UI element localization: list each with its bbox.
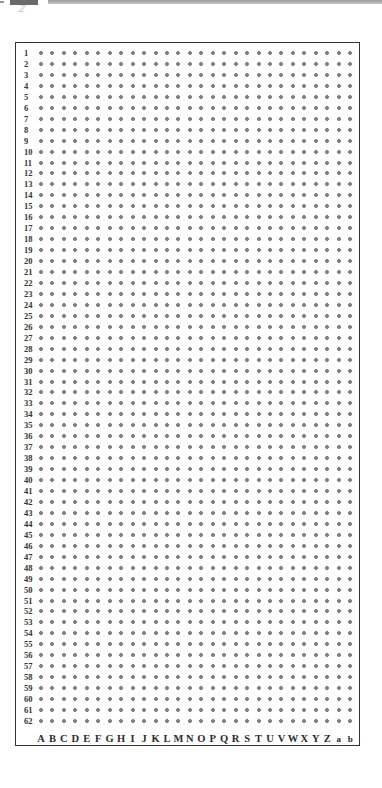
grid-dot xyxy=(211,445,215,449)
grid-dot xyxy=(108,106,112,110)
grid-dot xyxy=(85,84,89,88)
grid-dot xyxy=(131,686,135,690)
column-label: B xyxy=(46,733,58,745)
grid-dot xyxy=(268,161,272,165)
grid-dot xyxy=(348,303,352,307)
grid-dot xyxy=(165,478,169,482)
grid-dot xyxy=(154,139,158,143)
grid-dot xyxy=(108,281,112,285)
grid-dot xyxy=(39,566,43,570)
grid-dot xyxy=(337,128,341,132)
grid-dot xyxy=(96,128,100,132)
grid-dot xyxy=(85,577,89,581)
grid-dot xyxy=(108,533,112,537)
grid-dot xyxy=(234,719,238,723)
grid-dot xyxy=(291,358,295,362)
grid-dot xyxy=(268,117,272,121)
grid-dot xyxy=(142,555,146,559)
grid-dot xyxy=(154,544,158,548)
grid-dot xyxy=(268,325,272,329)
grid-dot xyxy=(188,686,192,690)
grid-dot xyxy=(245,95,249,99)
grid-dot xyxy=(188,95,192,99)
grid-dot xyxy=(131,456,135,460)
grid-dot xyxy=(291,117,295,121)
grid-dot xyxy=(291,369,295,373)
grid-dot xyxy=(257,675,261,679)
grid-dot xyxy=(222,358,226,362)
grid-dot xyxy=(291,292,295,296)
grid-dot xyxy=(131,478,135,482)
grid-dot xyxy=(131,544,135,548)
grid-dot xyxy=(188,555,192,559)
grid-dot xyxy=(154,697,158,701)
grid-dot xyxy=(176,161,180,165)
grid-dot xyxy=(142,95,146,99)
grid-dot xyxy=(188,73,192,77)
grid-dot xyxy=(337,719,341,723)
column-label: Q xyxy=(218,733,230,745)
grid-dot xyxy=(314,150,318,154)
grid-dot xyxy=(325,599,329,603)
grid-dot xyxy=(131,369,135,373)
grid-dot xyxy=(234,73,238,77)
grid-dot xyxy=(257,686,261,690)
grid-dot xyxy=(154,577,158,581)
grid-dot xyxy=(154,631,158,635)
grid-dot xyxy=(268,62,272,66)
grid-dot xyxy=(131,489,135,493)
grid-dot xyxy=(291,522,295,526)
grid-dot xyxy=(211,467,215,471)
grid-dot xyxy=(337,325,341,329)
grid-dot xyxy=(325,139,329,143)
grid-dot xyxy=(108,347,112,351)
grid-dot xyxy=(85,544,89,548)
grid-dot xyxy=(154,401,158,405)
grid-dot xyxy=(96,139,100,143)
column-label: X xyxy=(298,733,310,745)
grid-dot xyxy=(108,369,112,373)
grid-dot xyxy=(39,708,43,712)
grid-dot xyxy=(154,380,158,384)
grid-dot xyxy=(62,84,66,88)
grid-dot xyxy=(348,139,352,143)
grid-dot xyxy=(325,347,329,351)
column-label: J xyxy=(138,733,150,745)
grid-dot xyxy=(234,577,238,581)
grid-dot xyxy=(165,248,169,252)
grid-dot xyxy=(62,358,66,362)
grid-dot xyxy=(188,500,192,504)
grid-dot xyxy=(85,237,89,241)
grid-dot xyxy=(257,51,261,55)
grid-dot xyxy=(131,566,135,570)
grid-dot xyxy=(188,511,192,515)
row-label: 34 xyxy=(24,409,38,419)
grid-dot xyxy=(257,358,261,362)
grid-dot xyxy=(154,478,158,482)
grid-dot xyxy=(222,336,226,340)
grid-dot xyxy=(62,106,66,110)
grid-dot xyxy=(211,84,215,88)
grid-dot xyxy=(119,106,123,110)
grid-dot xyxy=(348,161,352,165)
grid-dot xyxy=(222,128,226,132)
grid-dot xyxy=(62,500,66,504)
grid-dot xyxy=(108,511,112,515)
grid-dot xyxy=(222,95,226,99)
grid-dot xyxy=(165,106,169,110)
grid-dot xyxy=(108,259,112,263)
grid-dot xyxy=(314,500,318,504)
grid-dot xyxy=(268,566,272,570)
grid-dot xyxy=(211,259,215,263)
grid-dot xyxy=(211,555,215,559)
grid-dot xyxy=(85,259,89,263)
grid-dot xyxy=(96,544,100,548)
row-label: 41 xyxy=(24,486,38,496)
row-label: 28 xyxy=(24,344,38,354)
grid-dot xyxy=(108,215,112,219)
grid-dot xyxy=(211,314,215,318)
grid-dot xyxy=(302,150,306,154)
grid-dot xyxy=(245,599,249,603)
grid-dot xyxy=(199,566,203,570)
grid-dot xyxy=(85,270,89,274)
